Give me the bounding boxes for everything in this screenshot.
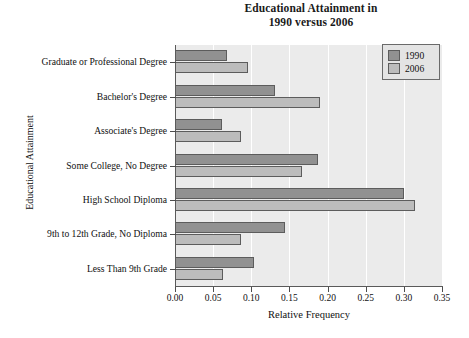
y-axis-category-label: Some College, No Degree	[66, 160, 167, 171]
bar-2006	[175, 62, 248, 73]
bar-2006	[175, 97, 320, 108]
bar-1990	[175, 50, 227, 61]
bar-1990	[175, 154, 318, 165]
y-axis-category-label: Graduate or Professional Degree	[42, 56, 167, 67]
legend-item-label: 2006	[405, 63, 424, 74]
legend-item: 1990	[388, 49, 435, 62]
x-axis-title: Relative Frequency	[175, 309, 443, 320]
gridline-vertical	[404, 45, 405, 286]
bar-1990	[175, 257, 254, 268]
y-axis-tick	[170, 269, 176, 270]
x-axis-tick-label: 0.00	[155, 293, 195, 303]
chart-legend: 19902006	[382, 44, 440, 80]
gridline-vertical	[442, 45, 443, 286]
y-axis-category-label: Associate's Degree	[94, 125, 167, 136]
bar-1990	[175, 222, 285, 233]
legend-item: 2006	[388, 62, 435, 75]
x-axis-tick-label: 0.30	[384, 293, 424, 303]
bar-2006	[175, 131, 241, 142]
y-axis-category-label: High School Diploma	[83, 194, 167, 205]
y-axis-title: Educational Attainment	[24, 83, 35, 243]
x-axis-tick	[404, 287, 405, 292]
bar-chart: Educational Attainment in 1990 versus 20…	[0, 0, 469, 338]
y-axis-category-label: Less Than 9th Grade	[87, 263, 167, 274]
x-axis-tick	[175, 287, 176, 292]
x-axis-tick	[366, 287, 367, 292]
x-axis-tick	[251, 287, 252, 292]
y-axis-tick	[170, 131, 176, 132]
y-axis-category-label: 9th to 12th Grade, No Diploma	[47, 228, 167, 239]
x-axis-tick-label: 0.10	[231, 293, 271, 303]
x-axis-tick-label: 0.20	[308, 293, 348, 303]
x-axis-tick	[289, 287, 290, 292]
x-axis-tick-label: 0.35	[422, 293, 462, 303]
bar-1990	[175, 188, 404, 199]
y-axis-category-label: Bachelor's Degree	[97, 91, 167, 102]
y-axis-tick	[170, 97, 176, 98]
x-axis-tick	[213, 287, 214, 292]
bar-2006	[175, 269, 223, 280]
bar-1990	[175, 119, 222, 130]
x-axis-tick-label: 0.05	[193, 293, 233, 303]
x-axis-tick	[328, 287, 329, 292]
legend-swatch-icon	[388, 50, 400, 61]
x-axis-tick-label: 0.25	[346, 293, 386, 303]
x-axis-tick	[442, 287, 443, 292]
plot-area	[175, 45, 442, 286]
y-axis-tick	[170, 200, 176, 201]
chart-title-line-1: Educational Attainment in	[180, 2, 442, 16]
bar-2006	[175, 234, 241, 245]
bar-2006	[175, 200, 415, 211]
bar-2006	[175, 166, 302, 177]
y-axis-tick	[170, 166, 176, 167]
legend-item-label: 1990	[405, 50, 424, 61]
x-axis-tick-label: 0.15	[269, 293, 309, 303]
legend-swatch-icon	[388, 63, 400, 74]
gridline-vertical	[366, 45, 367, 286]
gridline-vertical	[328, 45, 329, 286]
bar-1990	[175, 85, 275, 96]
y-axis-tick	[170, 62, 176, 63]
y-axis-tick	[170, 234, 176, 235]
chart-title-line-2: 1990 versus 2006	[180, 16, 442, 30]
chart-title: Educational Attainment in 1990 versus 20…	[180, 2, 442, 29]
x-axis-line	[175, 286, 443, 287]
